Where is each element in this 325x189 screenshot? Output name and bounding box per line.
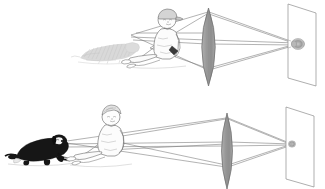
boy-torso-bottom	[98, 124, 124, 156]
projection-screen-top	[288, 4, 316, 86]
projection-screen-bottom	[286, 107, 314, 187]
projected-image-bottom	[288, 141, 295, 147]
diagram-panel-bottom: Bottom panel: near dark dog, small sharp…	[0, 95, 325, 189]
optics-figure: Top panel: distant faded dog, large blur…	[0, 0, 325, 189]
diagram-panel-top: Top panel: distant faded dog, large blur…	[0, 0, 325, 94]
